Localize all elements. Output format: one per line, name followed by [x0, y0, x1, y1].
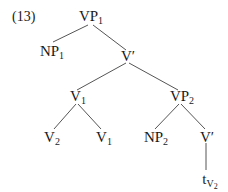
- node-v2: V2: [44, 130, 60, 145]
- edge-v1-v2: [54, 104, 76, 129]
- node-vbar2: V′: [200, 130, 214, 145]
- edge-vbar1-v1: [77, 63, 126, 90]
- node-trace: tV2: [202, 172, 217, 187]
- syntax-tree-diagram: (13) VP1 NP1 V′ V1 VP2 V2 V1 NP2 V′ tV2: [0, 0, 228, 192]
- node-np1: NP1: [40, 44, 64, 59]
- edge-vp1-vbar1: [93, 25, 126, 50]
- node-vp2: VP2: [170, 89, 194, 104]
- edge-vp2-vbar2: [181, 104, 205, 129]
- node-v1-mid: V1: [70, 89, 86, 104]
- node-v1-low: V1: [96, 130, 112, 145]
- edge-vp1-np1: [53, 25, 88, 42]
- node-vbar1: V′: [121, 49, 135, 64]
- edge-vp2-np2: [155, 104, 179, 129]
- edge-v1-v1low: [78, 104, 101, 129]
- node-np2: NP2: [144, 130, 168, 145]
- edge-vbar1-vp2: [129, 63, 178, 90]
- example-number: (13): [12, 10, 35, 24]
- node-vp1: VP1: [79, 9, 103, 24]
